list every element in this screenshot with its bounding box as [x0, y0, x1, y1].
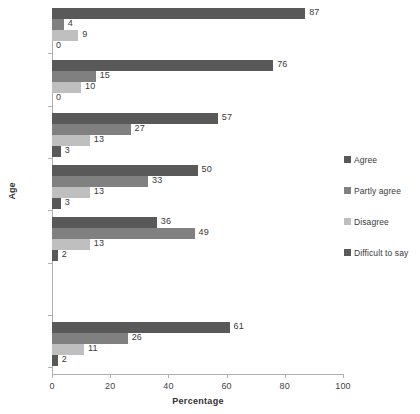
bar[interactable]	[52, 60, 273, 71]
bar-row: 10	[52, 82, 343, 93]
legend-swatch-icon	[344, 156, 351, 163]
bar-row: 76	[52, 60, 343, 71]
bar-group: 41-507615100	[0, 60, 291, 112]
bar-row: 4	[52, 19, 343, 30]
x-axis-tick-label: 60	[212, 381, 242, 391]
bar-value-label: 2	[62, 249, 67, 259]
legend-label: Agree	[354, 155, 377, 165]
bar-value-label: 0	[56, 92, 61, 102]
bar-group	[0, 270, 291, 322]
bar[interactable]	[52, 250, 58, 261]
bar[interactable]	[52, 135, 90, 146]
bar-row: 11	[52, 344, 343, 355]
bar-value-label: 0	[56, 40, 61, 50]
bar-value-label: 36	[161, 216, 171, 226]
bar-row: 0	[52, 93, 343, 104]
bar-group: 51+87490	[0, 8, 291, 60]
bar-row: 87	[52, 8, 343, 19]
bar[interactable]	[52, 8, 305, 19]
y-axis-title: Age	[7, 171, 17, 211]
bar-value-label: 27	[135, 123, 145, 133]
bar-value-label: 13	[94, 238, 104, 248]
bar-value-label: 4	[68, 18, 73, 28]
bar[interactable]	[52, 19, 64, 30]
x-axis-tick	[227, 374, 228, 378]
bar-value-label: 50	[202, 164, 212, 174]
legend-swatch-icon	[344, 249, 351, 256]
bar-value-label: 9	[82, 29, 87, 39]
bar-group: 31-405727133	[0, 113, 291, 165]
bar-row: 0	[52, 41, 343, 52]
bar-value-label: 3	[65, 197, 70, 207]
bar-group: 18-253649132	[0, 217, 291, 269]
legend-swatch-icon	[344, 187, 351, 194]
legend-item[interactable]: Partly agree	[344, 181, 401, 193]
legend-label: Partly agree	[354, 186, 401, 196]
bar-row: 13	[52, 239, 343, 250]
bar-value-label: 61	[234, 321, 244, 331]
bar-value-label: 15	[100, 70, 110, 80]
bar-group: 26-305033133	[0, 165, 291, 217]
x-axis-tick	[343, 374, 344, 378]
x-axis-tick	[168, 374, 169, 378]
x-axis-tick-label: 40	[153, 381, 183, 391]
x-axis-tick-label: 100	[328, 381, 358, 391]
bar[interactable]	[52, 239, 90, 250]
bar[interactable]	[52, 198, 61, 209]
grouped-bar-chart: 020406080100 51+8749041-50761510031-4057…	[0, 0, 420, 414]
bar[interactable]	[52, 217, 157, 228]
bar-value-label: 3	[65, 145, 70, 155]
bar-row: 9	[52, 30, 343, 41]
bar[interactable]	[52, 355, 58, 366]
bar[interactable]	[52, 187, 90, 198]
bar-value-label: 49	[199, 227, 209, 237]
legend-label: Difficult to say	[354, 248, 408, 258]
bar-value-label: 76	[277, 59, 287, 69]
bar-row: 3	[52, 146, 343, 157]
legend-item[interactable]: Agree	[344, 150, 377, 162]
x-axis-tick-label: 0	[37, 381, 67, 391]
bar-row: 36	[52, 217, 343, 228]
bar-value-label: 33	[152, 175, 162, 185]
bar-value-label: 13	[94, 134, 104, 144]
bar-row: 50	[52, 165, 343, 176]
bar-value-label: 87	[309, 7, 319, 17]
x-axis-title: Percentage	[52, 396, 344, 406]
x-axis-tick	[285, 374, 286, 378]
x-axis-tick	[110, 374, 111, 378]
bar[interactable]	[52, 228, 195, 239]
bar[interactable]	[52, 146, 61, 157]
x-axis-tick-label: 80	[270, 381, 300, 391]
bar-row: 2	[52, 355, 343, 366]
bar[interactable]	[52, 165, 198, 176]
bar-row: 2	[52, 250, 343, 261]
bar-row: 3	[52, 198, 343, 209]
bar[interactable]	[52, 124, 131, 135]
bar-value-label: 26	[132, 332, 142, 342]
bar-value-label: 57	[222, 112, 232, 122]
bar-row: 15	[52, 71, 343, 82]
bar-value-label: 2	[62, 354, 67, 364]
x-axis-tick	[52, 374, 53, 378]
bar-value-label: 13	[94, 186, 104, 196]
bar-row: 61	[52, 322, 343, 333]
bar-value-label: 11	[88, 343, 98, 353]
x-axis-tick-label: 20	[95, 381, 125, 391]
x-axis-line	[52, 374, 344, 375]
bar-row: 13	[52, 135, 343, 146]
legend-label: Disagree	[354, 217, 389, 227]
bar-value-label: 10	[85, 81, 95, 91]
bar-group: Total6126112	[0, 322, 291, 374]
bar-row: 13	[52, 187, 343, 198]
legend-swatch-icon	[344, 218, 351, 225]
legend-item[interactable]: Difficult to say	[344, 243, 408, 255]
bar[interactable]	[52, 344, 84, 355]
bar-row: 57	[52, 113, 343, 124]
legend-item[interactable]: Disagree	[344, 212, 389, 224]
